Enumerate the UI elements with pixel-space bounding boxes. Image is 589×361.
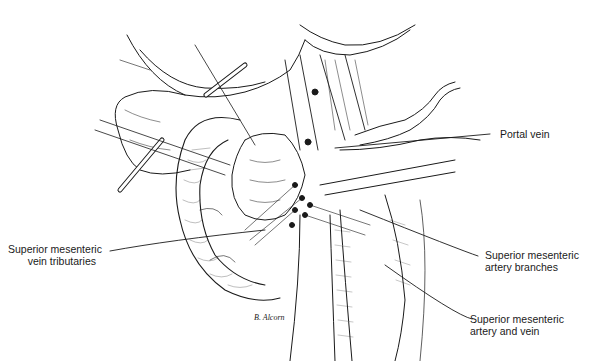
- leader-sma-branches: [360, 210, 478, 256]
- leader-portal-vein: [335, 134, 490, 148]
- label-sma-smv: Superior mesenteric artery and vein: [470, 313, 564, 337]
- pancreas-head: [232, 133, 305, 220]
- liver-retracted-tissue: [120, 25, 415, 97]
- label-portal-vein: Portal vein: [500, 128, 550, 140]
- leader-sma-smv: [385, 265, 472, 319]
- anatomy-figure: B. Alcorn Portal vein Superior mesenteri…: [0, 0, 589, 361]
- artist-signature: B. Alcorn: [254, 313, 285, 322]
- retractor-blade: [320, 160, 455, 195]
- portal-vessels: [285, 55, 368, 150]
- small-bowel-loop: [176, 118, 280, 301]
- forceps-upper: [195, 45, 255, 145]
- label-smv-tributaries: Superior mesenteric vein tributaries: [8, 243, 102, 267]
- mesenteric-root: [290, 195, 425, 361]
- surgical-illustration: B. Alcorn: [0, 0, 589, 361]
- label-sma-branches: Superior mesenteric artery branches: [485, 249, 579, 273]
- ligature-ties: [245, 183, 370, 246]
- leader-smv-tributaries: [110, 230, 265, 251]
